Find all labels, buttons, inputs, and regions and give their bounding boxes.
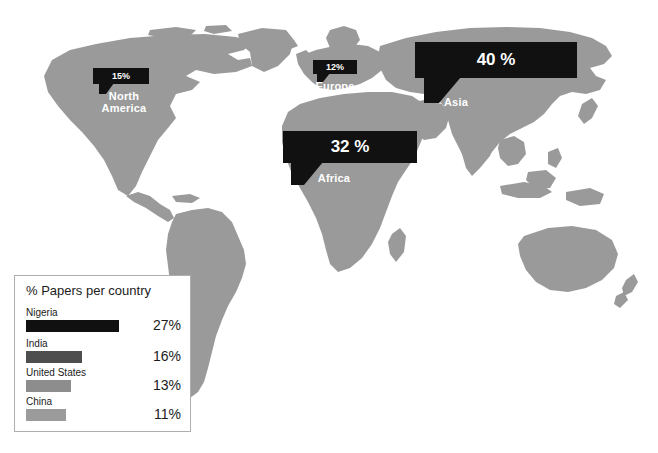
legend-barline-china: 11%: [26, 408, 181, 422]
callout-tail-africa: [291, 162, 323, 185]
legend-bar-china: [26, 409, 66, 421]
callout-tail-north-america: [99, 83, 114, 94]
legend-row-united-states: United States 13%: [26, 367, 181, 393]
legend-bar-india: [26, 351, 82, 363]
callout-value-asia: 40 %: [415, 42, 577, 78]
legend-value-nigeria: 27%: [153, 317, 181, 333]
continent-australia: [518, 226, 618, 292]
continent-central-america: [126, 192, 174, 222]
callout-tail-asia: [424, 77, 461, 103]
indochina: [498, 136, 526, 166]
legend-title: % Papers per country: [26, 283, 151, 298]
figure-canvas: North America Europe Asia Africa 15% 12%…: [0, 0, 658, 453]
legend-barline-united-states: 13%: [26, 379, 181, 393]
arctic-island-2: [204, 25, 232, 34]
callout-value-africa: 32 %: [283, 131, 417, 163]
legend-value-united-states: 13%: [153, 377, 181, 393]
caribbean-islands: [172, 194, 200, 203]
callout-value-north-america: 15%: [93, 68, 149, 84]
legend-bar-united-states: [26, 380, 71, 392]
madagascar: [388, 228, 406, 262]
japan: [578, 98, 598, 124]
new-zealand: [622, 274, 638, 296]
philippines: [548, 148, 562, 168]
callout-tail-europe: [317, 73, 330, 82]
continent-north-america: [44, 34, 252, 196]
legend-barline-india: 16%: [26, 350, 181, 364]
legend-value-china: 11%: [154, 406, 181, 422]
india-subcontinent: [460, 126, 496, 176]
new-guinea: [566, 188, 604, 206]
legend-barline-nigeria: 27%: [26, 319, 181, 333]
legend-row-china: China 11%: [26, 396, 181, 422]
legend-row-india: India 16%: [26, 338, 181, 364]
legend-value-india: 16%: [153, 348, 181, 364]
legend-bar-nigeria: [26, 320, 119, 332]
callout-value-europe: 12%: [313, 60, 357, 74]
legend-row-nigeria: Nigeria 27%: [26, 307, 181, 333]
legend-panel: % Papers per country Nigeria 27% India 1…: [14, 275, 191, 432]
